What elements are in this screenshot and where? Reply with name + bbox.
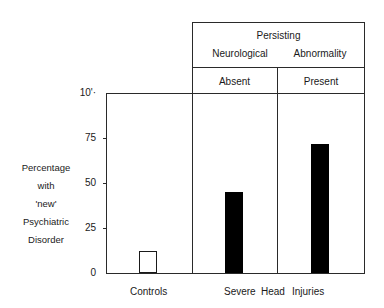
subgroup-label-present: Present <box>277 76 365 88</box>
separator-controls-injuries <box>192 22 193 274</box>
y-tick-label-50: 50 <box>72 177 96 189</box>
header-mid-border <box>192 67 365 68</box>
subgroup-label-absent: Absent <box>192 76 277 88</box>
y-tick-label-0: 0 <box>72 267 96 279</box>
top-border-line <box>106 93 365 94</box>
bar-controls <box>139 251 157 273</box>
y-tick-label-75: 75 <box>72 132 96 144</box>
y-axis-label-line-5: Disorder <box>6 234 86 246</box>
x-axis-baseline <box>106 273 365 274</box>
y-axis-label-line-1: Percentage <box>6 162 86 174</box>
y-axis-line <box>106 93 107 274</box>
header-title-abnormality: Abnormality <box>280 48 360 60</box>
bar-head-injury-absent <box>225 192 243 273</box>
x-label-severe: Severe <box>224 286 256 298</box>
bar-head-injury-present <box>311 144 329 273</box>
y-tick-label-25: 25 <box>72 222 96 234</box>
header-top-border <box>192 22 365 23</box>
header-title-neurological: Neurological <box>200 48 280 60</box>
right-border-line <box>364 22 365 274</box>
y-axis-label-line-3: 'new' <box>6 198 86 210</box>
separator-absent-present <box>277 67 278 274</box>
x-label-controls: Controls <box>130 286 167 298</box>
y-tick-label-100: 10'· <box>72 87 96 99</box>
x-label-head: Head <box>261 286 285 298</box>
x-label-injuries: Injuries <box>292 286 324 298</box>
header-title-persisting: Persisting <box>192 30 365 42</box>
